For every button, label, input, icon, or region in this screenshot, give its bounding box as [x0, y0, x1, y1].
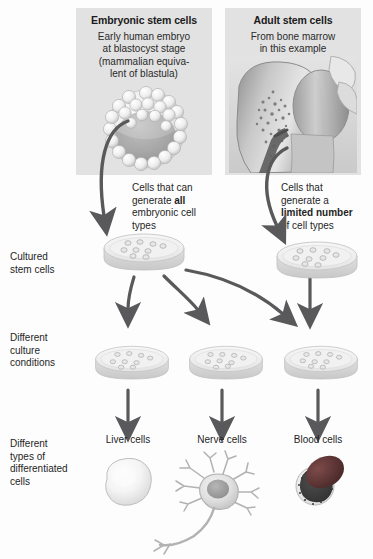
panel-adult-title: Adult stem cells — [225, 8, 361, 26]
label-nerve-cells: Nerve cells — [182, 434, 262, 445]
dish-adult — [273, 230, 361, 282]
row-label-diff-line-3: differentiated — [10, 463, 88, 476]
row-label-diff-line-1: Different — [10, 438, 88, 451]
row-label-cultured-stem-cells: Cultured stem cells — [10, 251, 80, 276]
row-label-diff-line-4: cells — [10, 476, 88, 489]
liver-cell-illustration — [98, 455, 158, 511]
panel-adult-subtitle-line-2: in this example — [229, 43, 357, 55]
row-label-conditions-line-3: conditions — [10, 357, 80, 370]
panel-adult-stem-cells: Adult stem cells From bone marrow in thi… — [225, 8, 361, 175]
panel-embryonic-title: Embryonic stem cells — [76, 8, 212, 26]
arrow-culture-to-liver — [128, 277, 134, 309]
caption-adult-line-3: limited number — [281, 207, 373, 220]
neuron-illustration — [152, 450, 272, 555]
arrow-culture-to-nerve — [164, 276, 198, 310]
row-label-differentiated-cells: Different types of differentiated cells — [10, 438, 88, 488]
caption-embryonic-line-2-text: generate all — [132, 195, 185, 206]
row-label-culture-conditions: Different culture conditions — [10, 332, 80, 370]
caption-adult-line-3-text: limited number — [281, 207, 353, 218]
panel-embryonic-subtitle: Early human embryo at blastocyst stage (… — [76, 26, 212, 81]
blastocyst-illustration — [100, 86, 192, 172]
caption-embryonic-line-3: embryonic cell — [132, 207, 222, 220]
arrow-culture-to-blood — [186, 270, 283, 314]
panel-embryonic-subtitle-line-2: at blastocyst stage — [80, 43, 208, 55]
caption-embryonic-line-2: generate all — [132, 195, 222, 208]
dish-blood — [281, 334, 361, 384]
panel-embryonic-subtitle-line-3: (mammalian equiva- — [80, 56, 208, 68]
label-liver-cells: Liver cells — [88, 434, 168, 445]
row-label-conditions-line-2: culture — [10, 345, 80, 358]
row-label-cultured-line-2: stem cells — [10, 264, 80, 277]
dish-nerve — [186, 334, 266, 384]
dish-embryonic — [100, 222, 188, 274]
bone-marrow-illustration — [229, 56, 357, 173]
panel-embryonic-subtitle-line-4: lent of blastula) — [80, 68, 208, 80]
blood-cells-illustration — [288, 448, 352, 510]
panel-adult-subtitle-line-1: From bone marrow — [229, 31, 357, 43]
caption-embryonic-line-1: Cells that can — [132, 182, 222, 195]
panel-embryonic-stem-cells: Embryonic stem cells Early human embryo … — [76, 8, 212, 175]
row-label-conditions-line-1: Different — [10, 332, 80, 345]
stem-cell-diagram: Embryonic stem cells Early human embryo … — [0, 0, 373, 559]
caption-adult-potency: Cells that generate a limited number of … — [281, 182, 373, 232]
panel-embryonic-subtitle-line-1: Early human embryo — [80, 31, 208, 43]
dish-liver — [92, 334, 172, 384]
row-label-cultured-line-1: Cultured — [10, 251, 80, 264]
panel-adult-subtitle: From bone marrow in this example — [225, 26, 361, 56]
caption-adult-line-1: Cells that — [281, 182, 373, 195]
label-blood-cells: Blood cells — [278, 434, 358, 445]
row-label-diff-line-2: types of — [10, 451, 88, 464]
caption-adult-line-2: generate a — [281, 195, 373, 208]
